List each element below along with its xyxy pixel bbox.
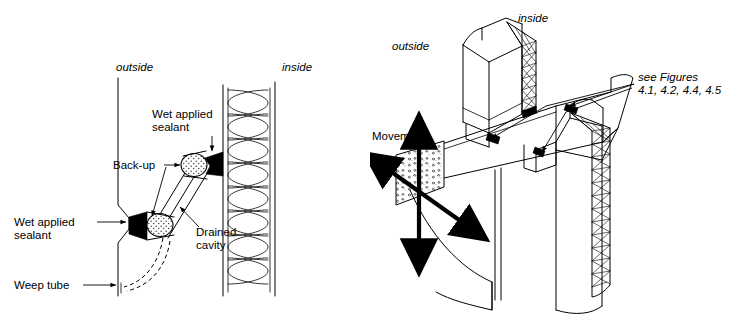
callout-text-line2: sealant [152,121,190,133]
callout-text-line2: cavity [196,239,226,251]
callout-text-backup: Back-up [113,159,155,171]
figure-root: outside inside [0,0,743,320]
callout-see-figures: see Figures 4.1, 4.2, 4.4, 4.5 [638,71,722,96]
backer-rod-lower [147,214,173,237]
upper-wall-block [463,18,522,133]
callout-weep-tube: Weep tube [14,279,116,291]
batt-insulation-cavity [228,90,268,284]
upper-sealant-joint [181,151,223,179]
exterior-cladding-line [118,78,129,296]
leader-arrow [180,207,199,227]
label-inside-right: inside [518,12,548,24]
callout-wet-applied-sealant-lower: Wet applied sealant [14,216,126,241]
label-outside-left: outside [116,61,153,73]
backer-rod-upper [181,154,207,177]
see-figures-line1: see Figures [638,71,698,83]
label-inside-left: inside [282,61,312,73]
wall-section-sealant-joint-diagram: outside inside [0,0,372,320]
leader-lines [492,84,634,152]
label-movement: Movement [372,130,426,142]
callout-text-line1: Wet applied [152,108,213,120]
label-outside-right: outside [392,40,429,52]
callout-back-up: Back-up [113,159,180,216]
weep-tube-dashed-curve [121,238,170,293]
see-figures-line2: 4.1, 4.2, 4.4, 4.5 [638,84,722,96]
callout-text-line1: Drained [196,226,236,238]
callout-text-weep-tube: Weep tube [14,279,69,291]
callout-wet-applied-sealant-upper: Wet applied sealant [152,108,213,151]
lower-sealant-joint [129,212,174,240]
callout-text-line1: Wet applied [14,216,75,228]
axonometric-wall-beam-junction-diagram: outside inside [370,0,743,320]
leader-to-mid-joint [570,84,634,106]
callout-text-line2: sealant [14,229,52,241]
